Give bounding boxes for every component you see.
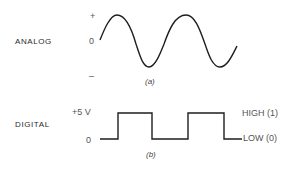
digital-label: DIGITAL — [15, 120, 50, 129]
digital-caption: (b) — [146, 150, 156, 159]
analog-sine-wave — [100, 15, 237, 67]
digital-high-tick: +5 V — [72, 107, 91, 117]
analog-zero-tick: 0 — [89, 36, 94, 46]
analog-caption: (a) — [145, 77, 155, 86]
digital-zero-tick: 0 — [86, 135, 91, 145]
digital-high-label: HIGH (1) — [242, 108, 278, 118]
analog-digital-diagram: ANALOG + 0 – (a) DIGITAL +5 V 0 HIGH (1)… — [0, 0, 291, 169]
analog-plus-tick: + — [90, 11, 95, 21]
analog-minus-tick: – — [89, 71, 94, 81]
analog-label: ANALOG — [15, 37, 52, 46]
digital-square-wave — [100, 113, 242, 139]
digital-low-label: LOW (0) — [243, 133, 277, 143]
